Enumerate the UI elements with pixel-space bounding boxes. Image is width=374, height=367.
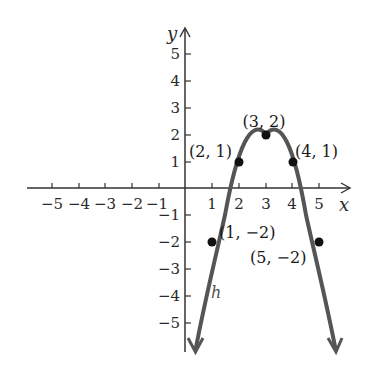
y-tick-label: 2 — [170, 126, 180, 144]
point-1-neg2 — [208, 238, 217, 247]
point-label: (2, 1) — [189, 142, 232, 161]
x-tick-label: 4 — [287, 195, 297, 213]
point-5-neg2 — [315, 238, 324, 247]
graph-figure: −5 −4 −3 −2 −1 1 2 3 4 5 x 5 4 3 2 1 −1 — [0, 0, 374, 367]
x-tick-label: 2 — [234, 195, 244, 213]
y-tick-label: −2 — [158, 233, 180, 251]
x-tick-label: −5 — [41, 195, 63, 213]
x-tick-label: 1 — [207, 195, 217, 213]
x-tick-label: −4 — [68, 195, 90, 213]
point-label: (5, −2) — [250, 248, 306, 267]
x-tick-label: −2 — [121, 195, 143, 213]
y-tick-label: 5 — [170, 45, 180, 63]
y-tick-label: 1 — [170, 153, 180, 171]
point-label: (3, 2) — [242, 112, 285, 131]
point-label: (1, −2) — [219, 223, 275, 242]
y-tick-label: −4 — [158, 287, 180, 305]
x-tick-label: −3 — [94, 195, 116, 213]
y-tick-label: −1 — [158, 206, 180, 224]
y-tick-label: −5 — [158, 314, 180, 332]
x-axis-label: x — [339, 194, 349, 215]
x-tick-label: 3 — [261, 195, 271, 213]
point-2-1 — [235, 158, 244, 167]
y-axis-label: y — [166, 23, 178, 44]
y-tick-label: 3 — [170, 99, 180, 117]
function-label: h — [211, 283, 221, 302]
point-label: (4, 1) — [295, 142, 338, 161]
y-tick-label: 4 — [170, 72, 180, 90]
y-tick-label: −3 — [158, 260, 180, 278]
point-3-2 — [262, 131, 271, 140]
x-tick-label: 5 — [314, 195, 324, 213]
